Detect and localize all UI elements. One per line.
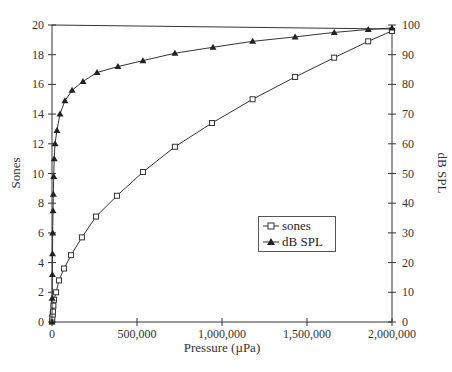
x-tick-label: 1,000,000 (198, 327, 246, 341)
x-tick-label: 2,000,000 (368, 327, 416, 341)
right-tick-label: 100 (402, 18, 420, 32)
open-square-marker-icon (263, 220, 279, 232)
series-db-spl (49, 24, 396, 324)
left-tick-label: 4 (38, 256, 44, 270)
filled-triangle-marker (50, 207, 57, 213)
left-tick-label: 14 (32, 107, 44, 121)
open-square-marker (140, 170, 145, 175)
left-tick-label: 18 (32, 48, 44, 62)
left-tick-label: 8 (38, 196, 44, 210)
right-tick-label: 50 (402, 167, 414, 181)
open-square-marker (94, 214, 99, 219)
right-tick-label: 30 (402, 226, 414, 240)
left-tick-label: 10 (32, 167, 44, 181)
open-square-marker (114, 193, 119, 198)
open-square-marker (51, 309, 56, 314)
x-axis-title: Pressure (µPa) (184, 340, 260, 355)
open-square-marker (62, 266, 67, 271)
open-square-marker (54, 290, 59, 295)
top-reference-line (52, 25, 392, 29)
open-square-marker (293, 74, 298, 79)
filled-triangle-marker (61, 97, 68, 103)
legend-item-db-spl: dB SPL (263, 234, 335, 250)
series (49, 24, 396, 324)
right-tick-label: 70 (402, 107, 414, 121)
x-tick-label: 0 (49, 327, 55, 341)
right-tick-label: 40 (402, 196, 414, 210)
filled-triangle-marker (49, 271, 56, 277)
right-tick-label: 80 (402, 77, 414, 91)
left-tick-label: 2 (38, 285, 44, 299)
open-square-marker (366, 39, 371, 44)
left-tick-label: 20 (32, 18, 44, 32)
filled-triangle-marker (50, 191, 57, 197)
open-square-marker (79, 235, 84, 240)
right-tick-label: 20 (402, 256, 414, 270)
left-tick-label: 0 (38, 315, 44, 329)
axes (52, 25, 392, 322)
x-tick-label: 1,500,000 (283, 327, 331, 341)
open-square-marker (172, 144, 177, 149)
right-tick-label: 90 (402, 48, 414, 62)
left-axis-title: Sones (8, 157, 23, 188)
legend: sones dB SPL (258, 216, 336, 252)
x-tick-label: 500,000 (118, 327, 157, 341)
filled-triangle-marker (79, 78, 86, 84)
legend-item-sones: sones (263, 218, 335, 234)
filled-triangle-marker (56, 111, 63, 117)
left-tick-label: 12 (32, 137, 44, 151)
chart: 02468101214161820 0102030405060708090100… (0, 0, 452, 372)
x-axis-ticks: 0500,0001,000,0001,500,0002,000,000 (49, 318, 416, 341)
left-tick-label: 16 (32, 77, 44, 91)
open-square-marker (56, 278, 61, 283)
legend-label-sones: sones (282, 218, 311, 234)
right-axis-ticks: 0102030405060708090100 (388, 18, 420, 329)
right-tick-label: 10 (402, 285, 414, 299)
right-axis-title: dB SPL (435, 153, 450, 194)
legend-label-db-spl: dB SPL (282, 234, 323, 250)
left-tick-label: 6 (38, 226, 44, 240)
filled-triangle-marker (53, 127, 60, 133)
filled-triangle-marker-icon (263, 236, 279, 248)
series-sones (50, 28, 395, 323)
open-square-marker (209, 121, 214, 126)
open-square-marker (69, 253, 74, 258)
open-square-marker (250, 97, 255, 102)
filled-triangle-marker (49, 250, 56, 256)
open-square-marker (332, 55, 337, 60)
right-tick-label: 60 (402, 137, 414, 151)
